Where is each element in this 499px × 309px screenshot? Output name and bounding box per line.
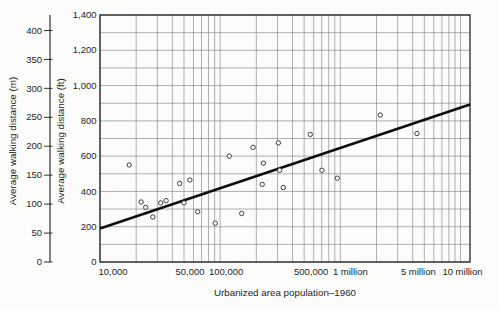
meters-tick-label: 100 — [26, 198, 42, 209]
data-point — [415, 131, 419, 135]
data-point — [158, 201, 162, 205]
data-point — [276, 141, 280, 145]
ft-tick-label: 1,000 — [73, 80, 97, 91]
data-point — [335, 176, 339, 180]
ft-tick-label: 800 — [81, 115, 97, 126]
x-tick-label: 10,000 — [98, 266, 127, 277]
meters-tick-label: 200 — [26, 140, 42, 151]
meters-axis: 050100150200250300350400 — [26, 15, 52, 267]
meters-tick-label: 150 — [26, 169, 42, 180]
data-point — [188, 178, 192, 182]
data-point — [281, 185, 285, 189]
data-point — [261, 161, 265, 165]
data-point — [278, 168, 282, 172]
x-tick-label: 5 million — [401, 266, 436, 277]
data-point — [177, 181, 181, 185]
x-tick-label: 50,000 — [175, 266, 204, 277]
scatter-plot-canvas: 050100150200250300350400 10,00050,000100… — [0, 0, 499, 309]
ft-tick-labels: 02004006008001,0001,2001,400 — [73, 9, 97, 267]
meters-tick-label: 0 — [37, 256, 42, 267]
data-point — [139, 200, 143, 204]
ft-tick-label: 200 — [81, 221, 97, 232]
meters-tick-label: 250 — [26, 111, 42, 122]
ft-tick-label: 600 — [81, 150, 97, 161]
data-point — [251, 145, 255, 149]
data-point — [164, 198, 168, 202]
walking-distance-figure: 050100150200250300350400 10,00050,000100… — [0, 0, 499, 309]
data-point — [239, 211, 243, 215]
data-point — [378, 113, 382, 117]
grid-lines — [100, 15, 470, 262]
y-axis-title-m: Average walking distance (m) — [7, 77, 18, 205]
meters-tick-label: 50 — [31, 227, 42, 238]
x-tick-labels: 10,00050,000100,000500,0001 million5 mil… — [98, 266, 482, 277]
meters-tick-label: 350 — [26, 54, 42, 65]
data-point — [308, 132, 312, 136]
data-point — [151, 215, 155, 219]
x-tick-label: 1 million — [333, 266, 368, 277]
regression-line — [100, 104, 470, 228]
ft-tick-label: 1,200 — [73, 44, 97, 55]
ft-tick-label: 0 — [91, 256, 96, 267]
trend-line — [100, 104, 470, 228]
meters-tick-label: 400 — [26, 25, 42, 36]
meters-tick-label: 300 — [26, 83, 42, 94]
x-tick-label: 500,000 — [294, 266, 328, 277]
data-point — [195, 210, 199, 214]
data-point — [182, 201, 186, 205]
ft-tick-label: 1,400 — [73, 9, 97, 20]
data-point — [143, 205, 147, 209]
data-point — [227, 154, 231, 158]
x-tick-label: 100,000 — [209, 266, 243, 277]
y-axis-title-ft: Average walking distance (ft) — [55, 78, 66, 204]
data-point — [127, 163, 131, 167]
data-point — [260, 182, 264, 186]
x-axis-title: Urbanized area population–1960 — [214, 287, 357, 298]
x-tick-label: 10 million — [442, 266, 482, 277]
data-point — [320, 168, 324, 172]
ft-tick-label: 400 — [81, 186, 97, 197]
data-point — [213, 221, 217, 225]
